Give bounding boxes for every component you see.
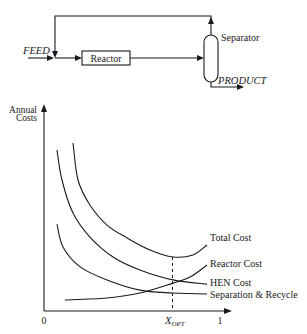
process-flow-diagram: FEED Reactor Separator PRODUCT [22,16,268,90]
reactor-cost-label: Reactor Cost [210,258,262,269]
y-axis-label-line2: Costs [16,113,37,123]
hen-cost-curve [57,150,207,284]
separator-inlet-arrow-icon [197,55,204,61]
reactor-label: Reactor [90,53,122,64]
cost-chart: Annual Costs 0 1 XOPT Total Cost Reactor… [9,104,298,328]
x-opt-subscript: OPT [171,320,185,328]
figure: FEED Reactor Separator PRODUCT Annual Co… [0,0,307,334]
separation-recycle-curve [57,224,207,294]
recycle-arrow-up-icon [208,17,214,24]
reactor-inlet-arrow-icon [75,55,82,61]
x-tick-0: 0 [42,315,47,326]
x-tick-opt: XOPT [164,315,186,328]
y-axis-arrow-icon [41,104,47,112]
total-cost-label: Total Cost [210,232,251,243]
product-label: PRODUCT [217,75,268,86]
recycle-stream-line [55,16,211,56]
separator-vessel [204,35,218,82]
hen-cost-label: HEN Cost [210,277,252,288]
x-axis-arrow-icon [224,308,232,314]
x-tick-1: 1 [218,315,223,326]
feed-label: FEED [22,45,50,56]
recycle-arrow-down-icon [52,51,58,58]
separation-recycle-label: Separation & Recycle [210,289,298,300]
separator-label: Separator [221,32,260,43]
